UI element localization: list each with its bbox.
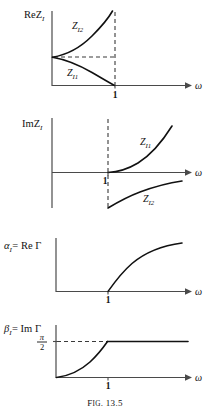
caption-smallcaps: IG bbox=[93, 400, 101, 408]
panel-alpha: 1 αI= Re Γ ω bbox=[4, 238, 202, 305]
panel1-annotation-z-i1-sub: I1 bbox=[72, 73, 79, 80]
panel2-y-label-sub: I bbox=[39, 124, 43, 132]
panel1-curve-z-i2 bbox=[53, 11, 113, 57]
panel1-tick-label: 1 bbox=[113, 90, 118, 100]
figure-container: 1 ReZI ω ZI2 ZI1 1 ImZI ω ZI1 ZI2 1 bbox=[0, 0, 210, 413]
panel-im-z: 1 ImZI ω ZI1 ZI2 bbox=[22, 118, 202, 208]
panel4-frac-denominator: 2 bbox=[40, 342, 44, 352]
panel4-tick-label: 1 bbox=[106, 381, 111, 391]
panel3-tick-label: 1 bbox=[106, 295, 111, 305]
caption-number: . 13.5 bbox=[101, 398, 123, 408]
panel2-y-label-main: ImZ bbox=[22, 118, 40, 129]
panel-beta: 1 π 2 βI= Im Γ ω bbox=[3, 323, 202, 391]
panel4-x-label: ω bbox=[195, 372, 202, 383]
panel4-curve-beta-rise bbox=[57, 342, 108, 378]
panel2-x-label: ω bbox=[195, 167, 202, 178]
panel2-tick-label: 1 bbox=[103, 176, 108, 186]
panel3-x-label: ω bbox=[195, 286, 202, 297]
panel-re-z: 1 ReZI ω ZI2 ZI1 bbox=[24, 9, 202, 100]
panel2-annotation-z-i1: ZI1 bbox=[140, 136, 151, 149]
panel3-y-label-tail: = Re Γ bbox=[12, 240, 41, 251]
panel1-x-arrowhead bbox=[185, 82, 192, 88]
panel1-curve-z-i1 bbox=[53, 57, 115, 85]
panel1-x-label: ω bbox=[195, 80, 202, 91]
panel1-annotation-z-i1: ZI1 bbox=[67, 67, 78, 80]
panel2-annotation-z-i2-sub: I2 bbox=[148, 199, 155, 206]
panel4-y-tick-label-pi-over-2: π 2 bbox=[37, 332, 47, 352]
panel3-x-arrowhead bbox=[185, 288, 192, 294]
panel2-y-label: ImZI bbox=[22, 118, 43, 132]
panel4-y-label-tail: = Im Γ bbox=[12, 323, 41, 334]
panel2-x-arrowhead bbox=[185, 169, 192, 175]
panel2-curve-z-i1 bbox=[108, 126, 172, 173]
panel3-curve-alpha bbox=[108, 243, 182, 292]
panel1-annotation-z-i2: ZI2 bbox=[72, 20, 84, 33]
panel1-y-label-main: ReZ bbox=[24, 9, 42, 20]
figure-13-5: 1 ReZI ω ZI2 ZI1 1 ImZI ω ZI1 ZI2 1 bbox=[0, 0, 210, 413]
panel1-annotation-z-i2-sub: I2 bbox=[77, 26, 84, 33]
panel2-annotation-z-i2: ZI2 bbox=[143, 193, 155, 206]
panel3-y-label: αI= Re Γ bbox=[4, 240, 41, 254]
panel4-y-label: βI= Im Γ bbox=[3, 323, 41, 337]
panel4-x-arrowhead bbox=[185, 374, 192, 380]
panel2-annotation-z-i1-sub: I1 bbox=[145, 142, 152, 149]
panel1-y-label: ReZI bbox=[24, 9, 45, 23]
figure-caption: FIG. 13.5 bbox=[87, 398, 123, 408]
panel1-y-label-sub: I bbox=[41, 15, 45, 23]
figure-caption-text: FIG. 13.5 bbox=[87, 398, 123, 408]
